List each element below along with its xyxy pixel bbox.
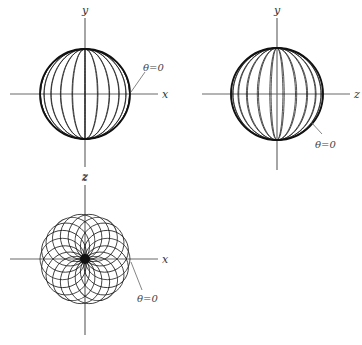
- figure-canvas: y x z θ=0 y z θ=0 z x θ=0: [0, 0, 362, 345]
- theta-leader-line: [311, 122, 322, 134]
- z-axis-label: z: [353, 88, 360, 101]
- theta-leader-line: [131, 72, 145, 92]
- theta-zero-annotation: θ=0: [315, 139, 336, 150]
- theta-zero-annotation: θ=0: [143, 62, 164, 73]
- panel-xy: y x z θ=0: [10, 4, 169, 183]
- x-axis-label: x: [162, 88, 169, 101]
- panel-xz: z x θ=0: [10, 171, 169, 335]
- x-axis-label: x: [162, 253, 169, 266]
- y-axis-label: y: [81, 4, 89, 17]
- panel-zy: y z θ=0: [202, 4, 360, 170]
- z-axis-label: z: [81, 171, 88, 184]
- theta-leader-line: [131, 262, 142, 290]
- theta-zero-annotation: θ=0: [137, 293, 158, 304]
- y-axis-label: y: [273, 4, 281, 17]
